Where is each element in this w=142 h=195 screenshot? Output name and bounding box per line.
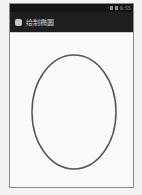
app-title: 绘制椭圆: [26, 17, 54, 27]
battery-icon: [115, 6, 118, 10]
status-time: 8:55: [120, 5, 131, 11]
ellipse-drawing: [10, 34, 133, 187]
android-app-icon[interactable]: [15, 19, 22, 26]
status-bar: 8:55: [10, 4, 133, 12]
ellipse-shape: [32, 55, 116, 169]
drawing-canvas: [10, 34, 133, 187]
phone-screen: 8:55 绘制椭圆: [9, 3, 134, 188]
action-bar: 绘制椭圆: [10, 12, 133, 33]
signal-icon: [110, 6, 113, 10]
